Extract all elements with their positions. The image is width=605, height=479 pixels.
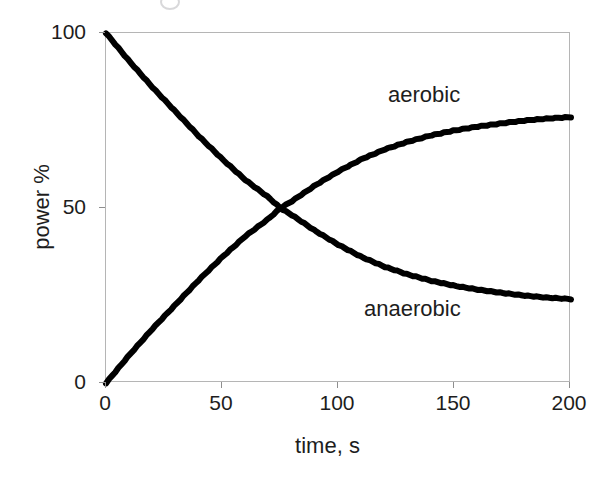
xtick-label-100: 100	[319, 392, 354, 413]
ytick-label-0: 0	[74, 371, 86, 392]
y-axis-title: power %	[31, 127, 53, 287]
tick-x-100	[337, 382, 338, 388]
series-label-aerobic: aerobic	[388, 84, 460, 106]
scan-artifact	[160, 0, 180, 10]
tick-x-50	[221, 382, 222, 388]
xtick-label-0: 0	[99, 392, 111, 413]
xtick-label-200: 200	[551, 392, 586, 413]
curves-svg	[106, 33, 571, 383]
tick-y-100	[99, 32, 105, 33]
xtick-label-50: 50	[209, 392, 232, 413]
tick-x-200	[569, 382, 570, 388]
x-axis-title: time, s	[0, 435, 605, 457]
plot-area	[105, 32, 570, 382]
ytick-label-50: 50	[63, 196, 86, 217]
curve-aerobic	[106, 117, 571, 383]
tick-x-150	[453, 382, 454, 388]
xtick-label-150: 150	[435, 392, 470, 413]
chart-figure: 0 50 100 0 50 100 150 200 time, s power …	[0, 0, 605, 479]
tick-y-50	[99, 207, 105, 208]
ytick-label-100: 100	[51, 21, 86, 42]
series-label-anaerobic: anaerobic	[364, 298, 461, 320]
curve-anaerobic	[106, 33, 571, 299]
tick-x-0	[105, 382, 106, 388]
